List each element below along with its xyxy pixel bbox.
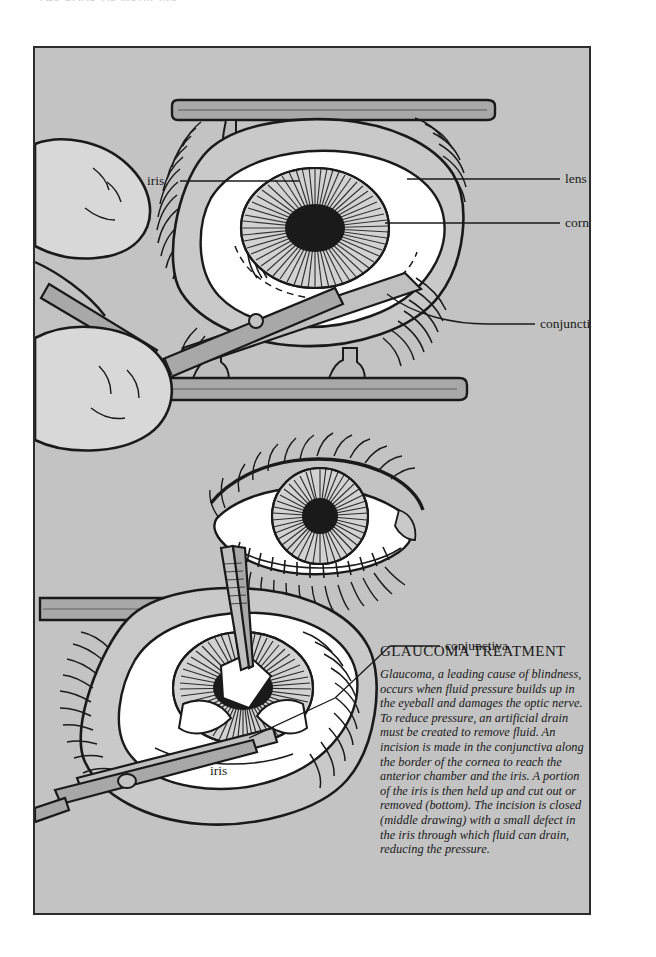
- label-iris-bottom: iris: [210, 763, 227, 779]
- page-header-clipped: THE BOOK OF MEDICINE: [38, 0, 179, 1]
- pupil-top: [285, 204, 345, 252]
- label-conjunctiva-top: conjunctiva: [540, 316, 591, 332]
- label-iris-top: iris: [147, 173, 164, 189]
- illustration-plate: iris lens cornea conjunctiva conjunctiva…: [33, 46, 591, 915]
- caption-body: Glaucoma, a leading cause of blindness, …: [380, 667, 585, 857]
- label-lens: lens: [565, 171, 587, 187]
- label-cornea: cornea: [565, 215, 591, 231]
- caption-block: GLAUCOMA TREATMENT Glaucoma, a leading c…: [380, 643, 585, 857]
- pupil-middle: [302, 498, 338, 534]
- figure-top-surgical-eye: [35, 100, 560, 451]
- caption-title: GLAUCOMA TREATMENT: [380, 643, 585, 660]
